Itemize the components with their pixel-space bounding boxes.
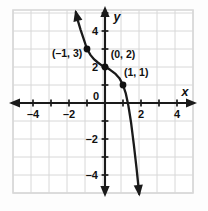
svg-text:–4: –4 xyxy=(86,169,99,181)
svg-text:(1, 1): (1, 1) xyxy=(124,66,149,78)
svg-text:4: 4 xyxy=(174,108,181,120)
svg-text:x: x xyxy=(181,85,190,99)
svg-text:–4: –4 xyxy=(27,108,40,120)
svg-text:–2: –2 xyxy=(86,133,98,145)
svg-text:–2: –2 xyxy=(63,108,75,120)
svg-text:2: 2 xyxy=(92,61,98,73)
svg-text:y: y xyxy=(113,10,122,24)
svg-text:(–1, 3): (–1, 3) xyxy=(52,47,82,59)
svg-text:0: 0 xyxy=(93,90,99,102)
svg-text:2: 2 xyxy=(138,108,144,120)
svg-text:4: 4 xyxy=(92,25,99,37)
grid-lines xyxy=(13,10,193,193)
coordinate-plane: –4–202442–2–4 (–1, 3)(0, 2)(1, 1) yx xyxy=(0,0,208,211)
svg-text:(0, 2): (0, 2) xyxy=(111,48,136,60)
graph-figure: –4–202442–2–4 (–1, 3)(0, 2)(1, 1) yx x y xyxy=(0,0,208,211)
